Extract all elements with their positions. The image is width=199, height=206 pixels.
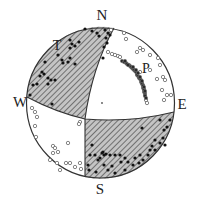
open-point: [64, 161, 67, 164]
filled-point: [133, 156, 136, 159]
open-point: [51, 151, 54, 154]
filled-point: [66, 60, 69, 63]
filled-point: [60, 58, 63, 61]
open-point: [160, 88, 163, 91]
filled-point: [113, 153, 116, 156]
open-point: [55, 161, 58, 164]
p-cluster-point: [123, 59, 126, 62]
open-point: [33, 110, 36, 113]
open-point: [162, 98, 165, 101]
open-point: [124, 37, 127, 40]
filled-point: [28, 93, 31, 96]
filled-point: [103, 28, 106, 31]
filled-point: [105, 41, 108, 44]
filled-point: [165, 125, 168, 128]
filled-point: [102, 45, 105, 48]
open-point: [135, 50, 138, 53]
filled-point: [108, 33, 111, 36]
filled-point: [50, 102, 53, 105]
p-cluster-point: [131, 65, 134, 68]
filled-point: [31, 83, 34, 86]
filled-point: [148, 148, 151, 151]
p-cluster-point: [136, 71, 139, 74]
p-cluster-point: [142, 85, 145, 88]
filled-point: [123, 168, 126, 171]
open-point: [155, 77, 158, 80]
filled-point: [158, 118, 161, 121]
open-point: [106, 50, 109, 53]
center-point: [101, 102, 103, 104]
filled-point: [68, 56, 71, 59]
open-point: [141, 48, 144, 51]
filled-point: [150, 144, 153, 147]
open-point: [66, 141, 69, 144]
filled-point: [141, 158, 144, 161]
filled-point: [153, 138, 156, 141]
open-point: [33, 124, 36, 127]
open-point: [68, 161, 71, 164]
filled-point: [70, 42, 73, 45]
filled-point: [46, 76, 49, 79]
filled-point: [83, 27, 86, 30]
filled-point: [131, 163, 134, 166]
open-point: [118, 55, 121, 58]
east-label: E: [177, 96, 186, 112]
north-label: N: [97, 7, 108, 23]
filled-point: [123, 156, 126, 159]
filled-point: [110, 164, 113, 167]
open-point: [77, 122, 80, 125]
filled-point: [126, 160, 129, 163]
filled-point: [118, 153, 121, 156]
filled-point: [73, 62, 76, 65]
focal-mechanism-stereonet: N S W E T P: [0, 0, 199, 206]
se-compressional-quadrant: [85, 112, 174, 179]
filled-point: [119, 160, 122, 163]
filled-point: [140, 126, 143, 129]
filled-point: [100, 151, 103, 154]
open-point: [122, 31, 125, 34]
filled-point: [113, 171, 116, 174]
filled-point: [162, 128, 165, 131]
open-point: [79, 167, 82, 170]
filled-point: [95, 31, 98, 34]
filled-point: [104, 36, 107, 39]
filled-point: [46, 82, 49, 85]
open-point: [34, 135, 37, 138]
filled-point: [153, 148, 156, 151]
open-point: [165, 93, 168, 96]
filled-point: [138, 153, 141, 156]
open-point: [78, 161, 81, 164]
open-point: [48, 158, 51, 161]
filled-point: [77, 40, 80, 43]
filled-point: [43, 60, 46, 63]
filled-point: [98, 156, 101, 159]
p-cluster-point: [140, 79, 143, 82]
open-point: [158, 63, 161, 66]
p-axis-label: P: [142, 61, 150, 76]
filled-point: [163, 143, 166, 146]
t-axis-label: T: [53, 38, 62, 53]
filled-point: [49, 78, 52, 81]
open-point: [35, 115, 38, 118]
filled-point: [158, 141, 161, 144]
filled-point: [146, 153, 149, 156]
filled-point: [137, 161, 140, 164]
p-cluster-point: [134, 68, 137, 71]
p-cluster-point: [126, 63, 129, 66]
open-point: [148, 53, 151, 56]
filled-point: [35, 82, 38, 85]
open-point: [53, 146, 56, 149]
open-point: [109, 28, 112, 31]
open-point: [58, 168, 61, 171]
open-point: [163, 78, 166, 81]
p-cluster-point: [143, 89, 146, 92]
filled-point: [90, 29, 93, 32]
filled-point: [106, 168, 109, 171]
filled-point: [68, 46, 71, 49]
filled-point: [88, 153, 91, 156]
open-point: [156, 56, 159, 59]
filled-point: [161, 136, 164, 139]
open-point: [30, 106, 33, 109]
p-cluster-point: [144, 96, 147, 99]
west-label: W: [13, 94, 28, 110]
